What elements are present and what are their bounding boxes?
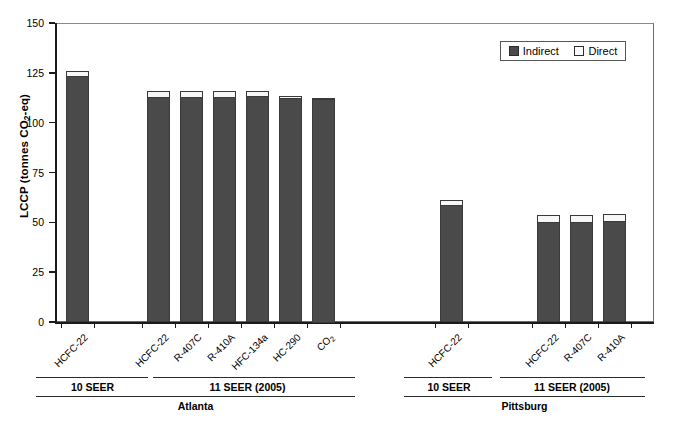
y-tick-label-0: 0 bbox=[14, 317, 44, 327]
legend-entry-direct: Direct bbox=[574, 45, 617, 57]
x-tick-8 bbox=[241, 323, 242, 328]
group-label-atlanta-11seer: 11 SEER (2005) bbox=[140, 381, 355, 393]
x-tick-20 bbox=[598, 323, 599, 328]
x-tick-16 bbox=[532, 323, 533, 328]
bar-segment-direct bbox=[603, 214, 626, 221]
y-tick-label-150: 150 bbox=[14, 18, 44, 28]
y-axis-title-text: LCCP (tonnes CO bbox=[18, 120, 30, 218]
bracket-pittsburg-11seer bbox=[500, 377, 645, 378]
x-tick-6 bbox=[208, 323, 209, 328]
bar-segment-indirect bbox=[147, 97, 170, 322]
legend-label-indirect: Indirect bbox=[523, 45, 559, 57]
bar-segment-indirect bbox=[312, 99, 335, 323]
y-axis-title-tail: -eq) bbox=[18, 94, 30, 115]
x-tick-18 bbox=[565, 323, 566, 328]
bracket-atlanta-10seer bbox=[36, 377, 148, 378]
bar-hc-290-5 bbox=[279, 96, 302, 322]
y-tick-75 bbox=[49, 172, 55, 173]
bar-segment-indirect bbox=[213, 97, 236, 322]
bracket-pittsburg-city bbox=[404, 396, 645, 397]
y-tick-label-25: 25 bbox=[14, 267, 44, 277]
bracket-atlanta-city bbox=[36, 396, 355, 397]
group-label-atlanta-city: Atlanta bbox=[36, 400, 355, 412]
bar-hcfc-22-1 bbox=[147, 91, 170, 322]
x-tick-13 bbox=[340, 323, 341, 328]
x-tick-2 bbox=[142, 323, 143, 328]
bar-hcfc-22-7 bbox=[440, 200, 463, 322]
x-tick-0 bbox=[61, 323, 62, 328]
x-tick-12 bbox=[307, 323, 308, 328]
bar-segment-indirect bbox=[537, 222, 560, 322]
bar-r-407c-2 bbox=[180, 91, 203, 322]
y-tick-100 bbox=[49, 122, 55, 123]
legend-swatch-direct-icon bbox=[574, 46, 584, 56]
bar-hcfc-22-8 bbox=[537, 215, 560, 322]
group-label-pittsburg-11seer: 11 SEER (2005) bbox=[497, 381, 647, 393]
legend-label-direct: Direct bbox=[588, 45, 617, 57]
chart-legend: Indirect Direct bbox=[500, 41, 626, 61]
x-tick-21 bbox=[631, 323, 632, 328]
x-tick-15 bbox=[468, 323, 469, 328]
bracket-atlanta-11seer bbox=[153, 377, 355, 378]
plot-area bbox=[55, 23, 654, 322]
group-label-pittsburg-city: Pittsburg bbox=[404, 400, 645, 412]
y-tick-150 bbox=[49, 22, 55, 23]
group-label-pittsburg-10seer: 10 SEER bbox=[404, 381, 494, 393]
bar-segment-indirect bbox=[603, 221, 626, 322]
bar-segment-indirect bbox=[279, 98, 302, 322]
bar-hfc-134a-4 bbox=[246, 91, 269, 322]
x-tick-1 bbox=[94, 323, 95, 328]
legend-swatch-indirect-icon bbox=[509, 46, 519, 56]
bar-r-407c-9 bbox=[570, 215, 593, 322]
bar-r-410a-10 bbox=[603, 214, 626, 322]
x-tick-10 bbox=[274, 323, 275, 328]
x-tick-4 bbox=[175, 323, 176, 328]
bar-segment-indirect bbox=[440, 205, 463, 322]
y-axis-title-subscript: 2 bbox=[22, 115, 32, 120]
bar-segment-indirect bbox=[180, 97, 203, 322]
y-axis-line bbox=[55, 23, 57, 323]
bracket-pittsburg-10seer bbox=[404, 377, 492, 378]
legend-entry-indirect: Indirect bbox=[509, 45, 559, 57]
bar-segment-direct bbox=[537, 215, 560, 222]
bar-co2-6 bbox=[312, 98, 335, 322]
y-axis-title: LCCP (tonnes CO2-eq) bbox=[18, 46, 30, 266]
bar-segment-indirect bbox=[246, 96, 269, 322]
y-tick-50 bbox=[49, 222, 55, 223]
group-label-atlanta-10seer: 10 SEER bbox=[40, 381, 145, 393]
y-tick-125 bbox=[49, 72, 55, 73]
bar-segment-indirect bbox=[66, 76, 89, 322]
x-tick-14 bbox=[435, 323, 436, 328]
bar-segment-indirect bbox=[570, 222, 593, 322]
bar-r-410a-3 bbox=[213, 91, 236, 322]
bar-hcfc-22-0 bbox=[66, 71, 89, 322]
chart-container: 0255075100125150 LCCP (tonnes CO2-eq) HC… bbox=[0, 0, 673, 433]
bar-segment-direct bbox=[570, 215, 593, 222]
y-tick-25 bbox=[49, 271, 55, 272]
